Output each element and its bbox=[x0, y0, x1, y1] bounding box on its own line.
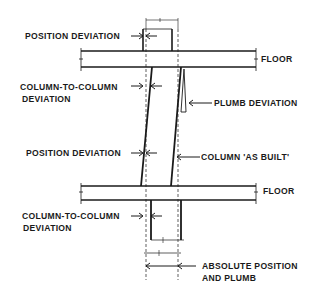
label-plumb-deviation: PLUMB DEVIATION bbox=[214, 98, 298, 109]
lower-column bbox=[144, 200, 184, 256]
label-position-deviation-top: POSITION DEVIATION bbox=[25, 31, 120, 42]
label-col-to-col-top-1: COLUMN-TO-COLUMN bbox=[20, 82, 118, 93]
plumb-deviation-wedge bbox=[181, 69, 186, 112]
label-col-to-col-bottom-2: DEVIATION bbox=[23, 223, 72, 234]
label-column-as-built: COLUMN 'AS BUILT' bbox=[201, 152, 289, 163]
floor-slab-top bbox=[79, 48, 258, 71]
label-col-to-col-bottom-1: COLUMN-TO-COLUMN bbox=[22, 211, 120, 222]
floor-slab-bottom bbox=[79, 183, 258, 204]
leader-lines bbox=[131, 33, 212, 269]
column-as-built bbox=[141, 67, 181, 186]
label-position-deviation-mid: POSITION DEVIATION bbox=[26, 148, 121, 159]
label-absolute-position-2: AND PLUMB bbox=[202, 273, 256, 284]
label-absolute-position-1: ABSOLUTE POSITION bbox=[202, 261, 298, 272]
label-floor-bottom: FLOOR bbox=[263, 186, 295, 197]
label-col-to-col-top-2: DEVIATION bbox=[22, 94, 71, 105]
label-floor-top: FLOOR bbox=[261, 54, 293, 65]
